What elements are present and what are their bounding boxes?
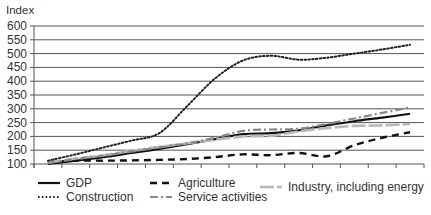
- y-tick-label: 150: [7, 143, 27, 157]
- gridlines: [30, 26, 424, 168]
- legend-label: Service activities: [178, 190, 267, 204]
- y-tick-label: 350: [7, 88, 27, 102]
- legend-label: Agriculture: [178, 176, 236, 190]
- y-tick-label: 450: [7, 60, 27, 74]
- y-tick-label: 100: [7, 157, 27, 171]
- y-tick-label: 550: [7, 33, 27, 47]
- y-axis-title: Index: [6, 4, 34, 16]
- x-axis-ticks: [34, 164, 424, 168]
- legend-label: GDP: [66, 176, 92, 190]
- series-line-construction: [48, 45, 410, 161]
- legend-item: Industry, including energy: [260, 180, 424, 194]
- series-lines: [48, 45, 410, 164]
- chart-canvas: Index 100150200250300350400450500550600 …: [0, 0, 431, 215]
- y-tick-labels: 100150200250300350400450500550600: [7, 19, 27, 171]
- y-tick-label: 300: [7, 102, 27, 116]
- legend-item: Construction: [38, 190, 133, 204]
- y-tick-label: 400: [7, 74, 27, 88]
- y-tick-label: 600: [7, 19, 27, 33]
- legend-item: Service activities: [150, 190, 267, 204]
- y-tick-label: 200: [7, 129, 27, 143]
- legend-item: Agriculture: [150, 176, 236, 190]
- y-tick-label: 500: [7, 47, 27, 61]
- y-tick-label: 250: [7, 116, 27, 130]
- legend-label: Industry, including energy: [288, 180, 424, 194]
- legend-label: Construction: [66, 190, 133, 204]
- line-chart: Index 100150200250300350400450500550600 …: [0, 0, 431, 215]
- legend: GDPAgricultureIndustry, including energy…: [38, 176, 424, 204]
- legend-item: GDP: [38, 176, 92, 190]
